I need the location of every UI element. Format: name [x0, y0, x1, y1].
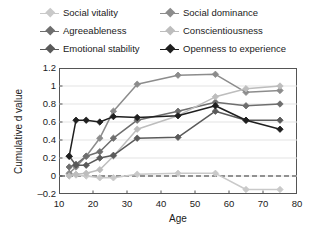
x-tick-label: 60 [216, 199, 242, 209]
legend-label: Social vitality [63, 8, 118, 18]
data-point-marker [243, 186, 249, 192]
legend-label: Emotional stability [63, 44, 140, 54]
legend-item[interactable]: Emotional stability [40, 44, 160, 54]
legend-marker-icon [40, 8, 59, 18]
legend-marker-icon [160, 26, 179, 36]
data-point-marker [66, 164, 72, 170]
data-point-marker [212, 94, 218, 100]
x-tick-label: 20 [80, 199, 106, 209]
data-point-marker [277, 83, 283, 89]
data-point-marker [175, 113, 181, 119]
x-tick-label: 40 [148, 199, 174, 209]
data-point-marker [277, 126, 283, 132]
x-tick-label: 70 [250, 199, 276, 209]
data-point-marker [97, 119, 103, 125]
legend-marker-icon [40, 44, 59, 54]
series-1 [66, 170, 283, 193]
legend-item[interactable]: Agreeableness [40, 26, 160, 36]
chart-legend: Social vitalitySocial dominanceAgreeable… [40, 4, 310, 58]
legend-label: Openness to experience [183, 44, 286, 54]
x-tick-label: 80 [284, 199, 310, 209]
x-axis-label: Age [59, 213, 297, 224]
legend-label: Agreeableness [63, 26, 126, 36]
series-line [69, 106, 280, 156]
chart-root: Social vitalitySocial dominanceAgreeable… [0, 0, 313, 240]
legend-item[interactable]: Social dominance [160, 8, 310, 18]
x-tick-label: 50 [182, 199, 208, 209]
data-point-marker [277, 186, 283, 192]
data-point-marker [212, 71, 218, 77]
data-point-marker [83, 162, 89, 168]
legend-item[interactable]: Openness to experience [160, 44, 310, 54]
legend-marker-icon [160, 44, 179, 54]
data-point-marker [97, 155, 103, 161]
legend-item[interactable]: Conscientiousness [160, 26, 310, 36]
x-tick-label: 10 [46, 199, 72, 209]
legend-marker-icon [160, 8, 179, 18]
legend-label: Social dominance [183, 8, 258, 18]
series-line [69, 86, 280, 176]
gridlines [59, 86, 297, 176]
legend-marker-icon [40, 26, 59, 36]
legend-item[interactable]: Social vitality [40, 8, 160, 18]
data-point-marker [175, 72, 181, 78]
plot-area: Cumulative d value –0.200.20.40.60.811.2… [0, 58, 313, 240]
x-tick-label: 30 [114, 199, 140, 209]
series-4 [66, 83, 283, 179]
data-point-marker [277, 101, 283, 107]
legend-label: Conscientiousness [183, 26, 263, 36]
